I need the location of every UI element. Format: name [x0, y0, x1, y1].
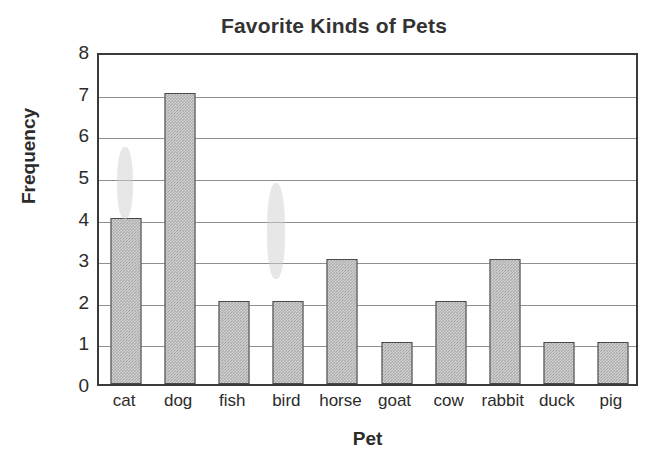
x-tick-label-bird: bird	[259, 391, 313, 411]
x-tick-label-dog: dog	[151, 391, 205, 411]
bar-slot	[99, 55, 153, 384]
bar-cow[interactable]	[435, 301, 466, 384]
x-axis-title: Pet	[97, 428, 638, 450]
bar-fish[interactable]	[219, 301, 250, 384]
x-tick-label-cow: cow	[422, 391, 476, 411]
bar-cat[interactable]	[111, 218, 142, 385]
bar-slot	[315, 55, 369, 384]
bar-bird[interactable]	[273, 301, 304, 384]
bar-slot	[207, 55, 261, 384]
x-tick-label-goat: goat	[368, 391, 422, 411]
bar-slot	[478, 55, 532, 384]
bar-dog[interactable]	[165, 93, 196, 384]
bar-rabbit[interactable]	[489, 259, 520, 384]
bar-slot	[370, 55, 424, 384]
x-tick-label-duck: duck	[530, 391, 584, 411]
bar-slot	[153, 55, 207, 384]
bar-horse[interactable]	[327, 259, 358, 384]
bar-slot	[532, 55, 586, 384]
y-tick-label: 5	[63, 168, 89, 187]
bar-slot	[586, 55, 638, 384]
y-tick-label: 1	[63, 334, 89, 353]
y-tick-label: 2	[63, 293, 89, 312]
x-tick-label-horse: horse	[313, 391, 367, 411]
y-tick-label: 8	[63, 43, 89, 62]
y-tick-label: 7	[63, 85, 89, 104]
y-tick-label: 4	[63, 210, 89, 229]
bar-duck[interactable]	[543, 342, 574, 384]
y-tick-label: 6	[63, 126, 89, 145]
plot-area	[97, 53, 638, 386]
x-axis-tick-labels: catdogfishbirdhorsegoatcowrabbitduckpig	[97, 391, 638, 417]
y-tick-label: 3	[63, 251, 89, 270]
chart-title: Favorite Kinds of Pets	[0, 14, 668, 38]
x-tick-label-pig: pig	[584, 391, 638, 411]
bar-slot	[261, 55, 315, 384]
x-tick-label-rabbit: rabbit	[476, 391, 530, 411]
bar-pig[interactable]	[597, 342, 628, 384]
y-axis-tick-labels: 012345678	[57, 53, 89, 386]
y-tick-label: 0	[63, 376, 89, 395]
bar-chart-figure: Favorite Kinds of Pets Frequency 0123456…	[0, 0, 668, 474]
bar-slot	[424, 55, 478, 384]
x-tick-label-fish: fish	[205, 391, 259, 411]
y-axis-title: Frequency	[18, 76, 40, 236]
x-tick-label-cat: cat	[97, 391, 151, 411]
bar-goat[interactable]	[381, 342, 412, 384]
